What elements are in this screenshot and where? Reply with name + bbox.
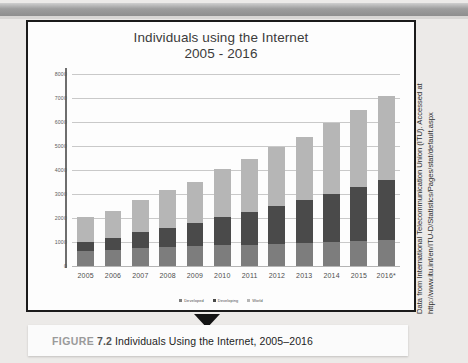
bar-segment-developing[interactable] (214, 217, 231, 246)
stacked-bar[interactable] (187, 182, 204, 266)
bar-segment-world[interactable] (214, 169, 231, 217)
textbook-page: Individuals using the Internet 2005 - 20… (0, 0, 468, 363)
page-header-band-edge (0, 16, 468, 19)
figure-caption-text: FIGURE 7.2 Individuals Using the Interne… (28, 335, 313, 347)
stacked-bar[interactable] (323, 123, 340, 266)
source-credit: Data from International Telecommunicatio… (415, 14, 459, 314)
y-axis-tick-label: 6000 (55, 119, 67, 125)
stacked-bar[interactable] (296, 137, 313, 266)
bar-segment-world[interactable] (132, 200, 149, 232)
bar-segment-developed[interactable] (187, 246, 204, 266)
bar-column[interactable]: 2013 (291, 74, 318, 266)
bar-column[interactable]: 2012 (263, 74, 290, 266)
bar-segment-developing[interactable] (187, 223, 204, 246)
bar-segment-world[interactable] (187, 182, 204, 224)
bar-segment-developed[interactable] (159, 247, 176, 266)
stacked-bar[interactable] (214, 169, 231, 266)
stacked-bar[interactable] (77, 217, 94, 266)
bar-segment-developing[interactable] (268, 206, 285, 244)
bar-column[interactable]: 2009 (181, 74, 208, 266)
y-axis-tick-label: 3000 (55, 191, 67, 197)
y-axis-tick-label: 0 (64, 263, 67, 269)
legend-item-world[interactable]: World (247, 298, 263, 303)
bar-segment-world[interactable] (323, 123, 340, 194)
bar-segment-developed[interactable] (105, 250, 122, 266)
bar-segment-developed[interactable] (214, 245, 231, 266)
chart-title: Individuals using the Internet 2005 - 20… (28, 30, 414, 62)
bar-column[interactable]: 2011 (236, 74, 263, 266)
stacked-bar[interactable] (159, 190, 176, 266)
bar-segment-developed[interactable] (241, 245, 258, 266)
bar-segment-world[interactable] (241, 159, 258, 212)
bar-segment-developed[interactable] (296, 243, 313, 266)
bar-column[interactable]: 2006 (99, 74, 126, 266)
bar-column[interactable]: 2008 (154, 74, 181, 266)
x-axis-tick-label: 2013 (296, 272, 312, 279)
bar-segment-developing[interactable] (132, 232, 149, 248)
figure-caption-prefix: FIGURE (52, 335, 94, 347)
chart-inner: Individuals using the Internet 2005 - 20… (28, 22, 414, 310)
x-axis-tick-label: 2005 (77, 272, 93, 279)
bar-column[interactable]: 2016* (373, 74, 400, 266)
bar-segment-developing[interactable] (77, 242, 94, 252)
y-axis-tick-label: 2000 (55, 215, 67, 221)
chart-title-line2: 2005 - 2016 (28, 46, 414, 62)
bar-segment-developed[interactable] (323, 242, 340, 266)
chart-title-line1: Individuals using the Internet (134, 30, 309, 45)
legend-item-developed[interactable]: Developed (179, 298, 204, 303)
figure-caption-number: 7.2 (97, 335, 112, 347)
bar-column[interactable]: 2007 (127, 74, 154, 266)
bar-column[interactable]: 2005 (72, 74, 99, 266)
bar-column[interactable]: 2014 (318, 74, 345, 266)
bar-segment-world[interactable] (159, 190, 176, 227)
bar-segment-developed[interactable] (378, 240, 395, 266)
legend-item-developing[interactable]: Developing (213, 298, 238, 303)
bar-segment-developing[interactable] (378, 180, 395, 239)
x-axis-tick-label: 2009 (187, 272, 203, 279)
bar-segment-developing[interactable] (159, 228, 176, 247)
bar-segment-developing[interactable] (350, 187, 367, 241)
bar-segment-world[interactable] (105, 211, 122, 239)
stacked-bar[interactable] (350, 110, 367, 266)
source-credit-line1: Data from International Telecommunicatio… (415, 14, 426, 314)
stacked-bar[interactable] (105, 211, 122, 266)
x-axis-tick-label: 2006 (105, 272, 121, 279)
x-axis-tick-label: 2011 (242, 272, 258, 279)
bar-segment-world[interactable] (77, 217, 94, 242)
stacked-bar[interactable] (268, 147, 285, 266)
bar-column[interactable]: 2010 (209, 74, 236, 266)
stacked-bar[interactable] (132, 200, 149, 266)
bar-series-group: 2005200620072008200920102011201220132014… (72, 74, 400, 266)
page-header-band (0, 3, 468, 16)
bar-segment-developed[interactable] (350, 241, 367, 266)
bar-segment-developing[interactable] (241, 212, 258, 245)
x-axis-tick-label: 2007 (132, 272, 148, 279)
bar-segment-developing[interactable] (105, 238, 122, 250)
legend-label: Developing (218, 298, 238, 303)
bar-segment-world[interactable] (268, 147, 285, 205)
x-axis-tick-label: 2015 (351, 272, 367, 279)
chart-legend: DevelopedDevelopingWorld (28, 298, 414, 303)
y-axis-tick-label: 4000 (55, 167, 67, 173)
legend-label: World (252, 298, 263, 303)
bar-segment-developing[interactable] (323, 194, 340, 242)
bar-segment-world[interactable] (350, 110, 367, 187)
bar-segment-world[interactable] (378, 96, 395, 181)
bar-column[interactable]: 2015 (345, 74, 372, 266)
bar-segment-developing[interactable] (296, 200, 313, 242)
x-axis-tick-label: 2008 (159, 272, 175, 279)
y-axis-tick-label: 1000 (55, 239, 67, 245)
bar-segment-developed[interactable] (77, 251, 94, 266)
stacked-bar[interactable] (378, 96, 395, 266)
bar-segment-world[interactable] (296, 137, 313, 200)
bar-segment-developed[interactable] (132, 248, 149, 266)
bar-segment-developed[interactable] (268, 244, 285, 266)
figure-caption-title: Individuals Using the Internet, 2005–201… (115, 335, 313, 347)
stacked-bar[interactable] (241, 159, 258, 266)
legend-swatch-icon (247, 299, 250, 302)
gridline: 0 (72, 266, 400, 267)
y-axis-tick-label: 7000 (55, 95, 67, 101)
source-credit-line2: http://www.itu.int/en/ITU-D/Statistics/P… (426, 14, 437, 314)
x-axis-tick-label: 2010 (214, 272, 230, 279)
x-axis-tick-label: 2016* (377, 272, 396, 279)
